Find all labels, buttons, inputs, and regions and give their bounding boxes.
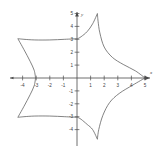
x-axis-arrow-left-icon (10, 77, 14, 80)
x-axis-label: x (149, 70, 153, 75)
y-tick-label: -4 (69, 127, 74, 132)
y-tick-label: 2 (70, 50, 73, 55)
x-tick-labels: -4-3-2-112345 (21, 83, 147, 88)
y-tick-label: -3 (69, 114, 74, 119)
y-axis-arrow-icon (75, 12, 79, 16)
hypocycloid-curve (18, 14, 145, 140)
plot-area: -4-3-2-112345 54321-1-2-3-4 x y (0, 0, 158, 155)
x-tick-label: 5 (144, 83, 147, 88)
x-tick-label: -1 (61, 83, 66, 88)
y-tick-label: 1 (70, 63, 73, 68)
y-tick-label: -2 (69, 102, 74, 107)
y-tick-labels: 54321-1-2-3-4 (69, 11, 74, 132)
y-tick-label: -1 (69, 89, 74, 94)
y-tick-label: 5 (70, 11, 73, 16)
x-tick-label: 3 (117, 83, 120, 88)
y-axis-group (75, 12, 79, 146)
x-tick-label: 4 (130, 83, 133, 88)
x-tick-label: -3 (34, 83, 39, 88)
chart-figure: -4-3-2-112345 54321-1-2-3-4 x y (0, 0, 158, 155)
y-axis-label: y (80, 12, 84, 17)
x-axis-group (10, 76, 150, 80)
x-tick-label: -2 (48, 83, 53, 88)
x-tick-label: -4 (21, 83, 26, 88)
y-tick-label: 3 (70, 37, 73, 42)
x-tick-label: 1 (89, 83, 92, 88)
y-tick-label: 4 (70, 24, 73, 29)
x-tick-label: 2 (103, 83, 106, 88)
